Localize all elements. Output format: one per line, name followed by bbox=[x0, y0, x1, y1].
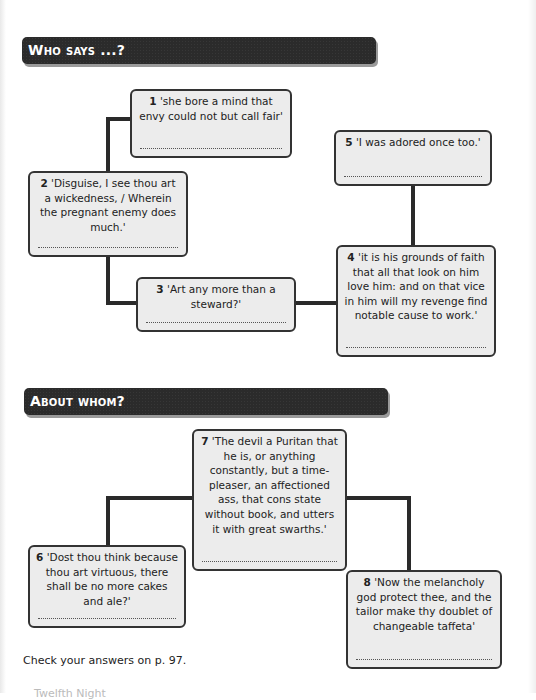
answer-line[interactable] bbox=[344, 176, 482, 177]
quote-box-1: 1 'she bore a mind that envy could not b… bbox=[130, 89, 292, 158]
connector-7-8-horizontal bbox=[345, 496, 411, 500]
quote-box-6: 6 'Dost thou think because thou art virt… bbox=[28, 545, 186, 628]
quote-number: 4 bbox=[347, 251, 354, 263]
page-edge-right bbox=[528, 0, 536, 693]
answer-line[interactable] bbox=[38, 247, 178, 248]
quote-number: 8 bbox=[364, 576, 371, 588]
quote-text: 'Disguise, I see thou art a wickedness, … bbox=[40, 177, 176, 233]
quote-box-5: 5 'I was adored once too.' bbox=[334, 130, 492, 186]
section-title: About whom? bbox=[30, 393, 125, 409]
answer-line[interactable] bbox=[146, 322, 286, 323]
quote-text: 'Now the melancholy god protect thee, an… bbox=[356, 576, 492, 632]
quote-text: 'she bore a mind that envy could not but… bbox=[139, 95, 283, 122]
connector-2-3-horizontal bbox=[106, 301, 138, 305]
answer-line[interactable] bbox=[202, 561, 337, 562]
quote-text: 'I was adored once too.' bbox=[356, 136, 481, 148]
connector-7-6-horizontal bbox=[106, 496, 194, 500]
quote-text: 'it is his grounds of faith that all tha… bbox=[345, 251, 488, 321]
quote-number: 2 bbox=[40, 177, 47, 189]
quote-box-4: 4 'it is his grounds of faith that all t… bbox=[336, 245, 496, 357]
connector-1-2-vertical bbox=[106, 117, 110, 173]
connector-5-4 bbox=[411, 185, 415, 247]
quote-number: 3 bbox=[156, 283, 163, 295]
quote-text: 'The devil a Puritan that he is, or anyt… bbox=[205, 435, 338, 535]
quote-box-8: 8 'Now the melancholy god protect thee, … bbox=[346, 570, 502, 669]
answer-line[interactable] bbox=[356, 659, 492, 660]
quote-box-2: 2 'Disguise, I see thou art a wickedness… bbox=[28, 171, 188, 257]
answer-line[interactable] bbox=[140, 148, 282, 149]
running-footer: Twelfth Night bbox=[34, 687, 106, 700]
quote-number: 6 bbox=[36, 551, 43, 563]
connector-7-6-vertical bbox=[106, 496, 110, 547]
check-answers-note: Check your answers on p. 97. bbox=[23, 654, 186, 667]
quote-text: 'Dost thou think because thou art virtuo… bbox=[46, 551, 178, 607]
page-edge-left bbox=[0, 0, 6, 693]
connector-7-8-vertical bbox=[407, 496, 411, 572]
answer-line[interactable] bbox=[38, 618, 176, 619]
quote-number: 7 bbox=[201, 435, 208, 447]
quote-text: 'Art any more than a steward?' bbox=[167, 283, 276, 310]
answer-line[interactable] bbox=[346, 347, 486, 348]
section-banner-who-says: Who says ...? bbox=[22, 37, 376, 64]
quote-box-7: 7 'The devil a Puritan that he is, or an… bbox=[192, 429, 347, 571]
section-title: Who says ...? bbox=[28, 42, 125, 58]
connector-2-3-vertical bbox=[106, 255, 110, 305]
quote-box-3: 3 'Art any more than a steward?' bbox=[136, 277, 296, 332]
quote-number: 5 bbox=[345, 136, 352, 148]
section-banner-about-whom: About whom? bbox=[24, 388, 388, 415]
connector-3-4 bbox=[294, 301, 338, 305]
quote-number: 1 bbox=[149, 95, 156, 107]
